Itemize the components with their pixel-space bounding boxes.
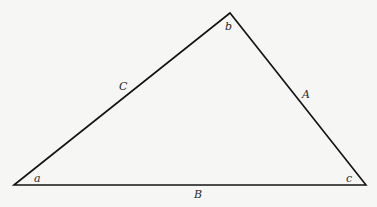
triangle-diagram: a b c C A B <box>0 0 377 207</box>
side-label-B: B <box>193 188 202 201</box>
angle-label-c: c <box>346 172 352 185</box>
angle-label-b: b <box>225 20 232 33</box>
side-label-C: C <box>119 80 128 93</box>
side-label-A: A <box>301 88 310 101</box>
angle-label-a: a <box>34 172 41 185</box>
triangle-shape <box>14 13 366 185</box>
